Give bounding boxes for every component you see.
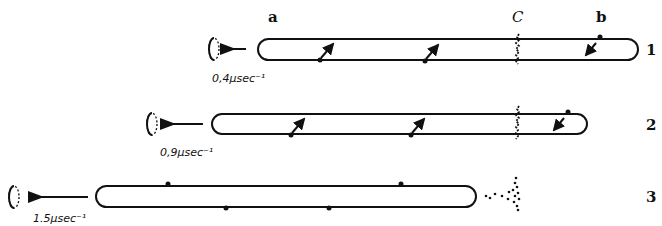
row-2: 2 0,9µsec⁻¹ <box>147 106 656 159</box>
rotation-arc-icon <box>147 113 152 135</box>
rod-cell <box>212 114 587 134</box>
rotation-arc-icon <box>209 38 214 60</box>
label-cleavage-c: C <box>512 8 524 26</box>
rotation-arc-icon <box>9 186 14 208</box>
diagram: a C b 1 0,4µsec⁻¹ 2 0,9µsec⁻¹ <box>0 0 662 226</box>
scattered-fragments <box>485 177 521 212</box>
label-end-a: a <box>268 8 278 26</box>
speed-label: 0,4µsec⁻¹ <box>212 72 265 85</box>
marker-dot <box>166 182 171 187</box>
row-1: 1 0,4µsec⁻¹ <box>209 34 656 85</box>
speed-label: 0,9µsec⁻¹ <box>160 146 213 159</box>
row-number: 1 <box>646 41 656 59</box>
row-number: 3 <box>646 188 656 206</box>
marker-dot <box>224 206 229 211</box>
row-3: 3 1.5µsec⁻¹ <box>9 177 656 225</box>
speed-label: 1.5µsec⁻¹ <box>33 212 86 225</box>
marker-dot <box>566 110 571 115</box>
label-end-b: b <box>596 8 607 26</box>
rod-cell <box>96 186 476 207</box>
marker-dot <box>598 35 603 40</box>
rod-cell <box>258 39 638 60</box>
row-number: 2 <box>646 116 656 134</box>
marker-dot <box>399 182 404 187</box>
marker-dot <box>327 206 332 211</box>
